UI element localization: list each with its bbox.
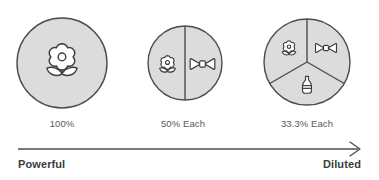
flower-center <box>166 60 170 64</box>
percentage-labels-row: 100% 50% Each 33.3% Each <box>0 118 379 140</box>
circle-two-svg <box>146 24 224 104</box>
circle-three-svg <box>262 17 354 111</box>
flower-center <box>58 53 66 61</box>
flower-icon <box>47 44 77 76</box>
circle-three-ingredients <box>262 17 354 111</box>
scale-arrow <box>0 140 379 158</box>
flower-icon <box>160 56 176 73</box>
scale-endpoints-row: Powerful Diluted <box>0 158 379 180</box>
circles-row <box>0 0 379 118</box>
flower-icon <box>282 41 296 55</box>
scale-arrow-svg <box>0 140 379 158</box>
circle-one-svg <box>16 15 108 113</box>
scale-label-diluted: Diluted <box>323 158 361 170</box>
bowtie-knot <box>324 45 329 50</box>
dilution-scale-diagram: 100% 50% Each 33.3% Each Powerful Dilute… <box>0 0 379 180</box>
percentage-label-three: 33.3% Each <box>258 118 356 129</box>
bowtie-icon <box>316 44 337 53</box>
circle-one-ingredient <box>16 15 108 113</box>
circle-two-ingredients <box>146 24 224 104</box>
bowtie-icon <box>190 59 215 70</box>
bowtie-knot <box>200 61 206 67</box>
percentage-label-two: 50% Each <box>144 118 222 129</box>
flower-center <box>287 45 290 48</box>
scale-label-powerful: Powerful <box>18 158 65 170</box>
percentage-label-one: 100% <box>16 118 108 129</box>
